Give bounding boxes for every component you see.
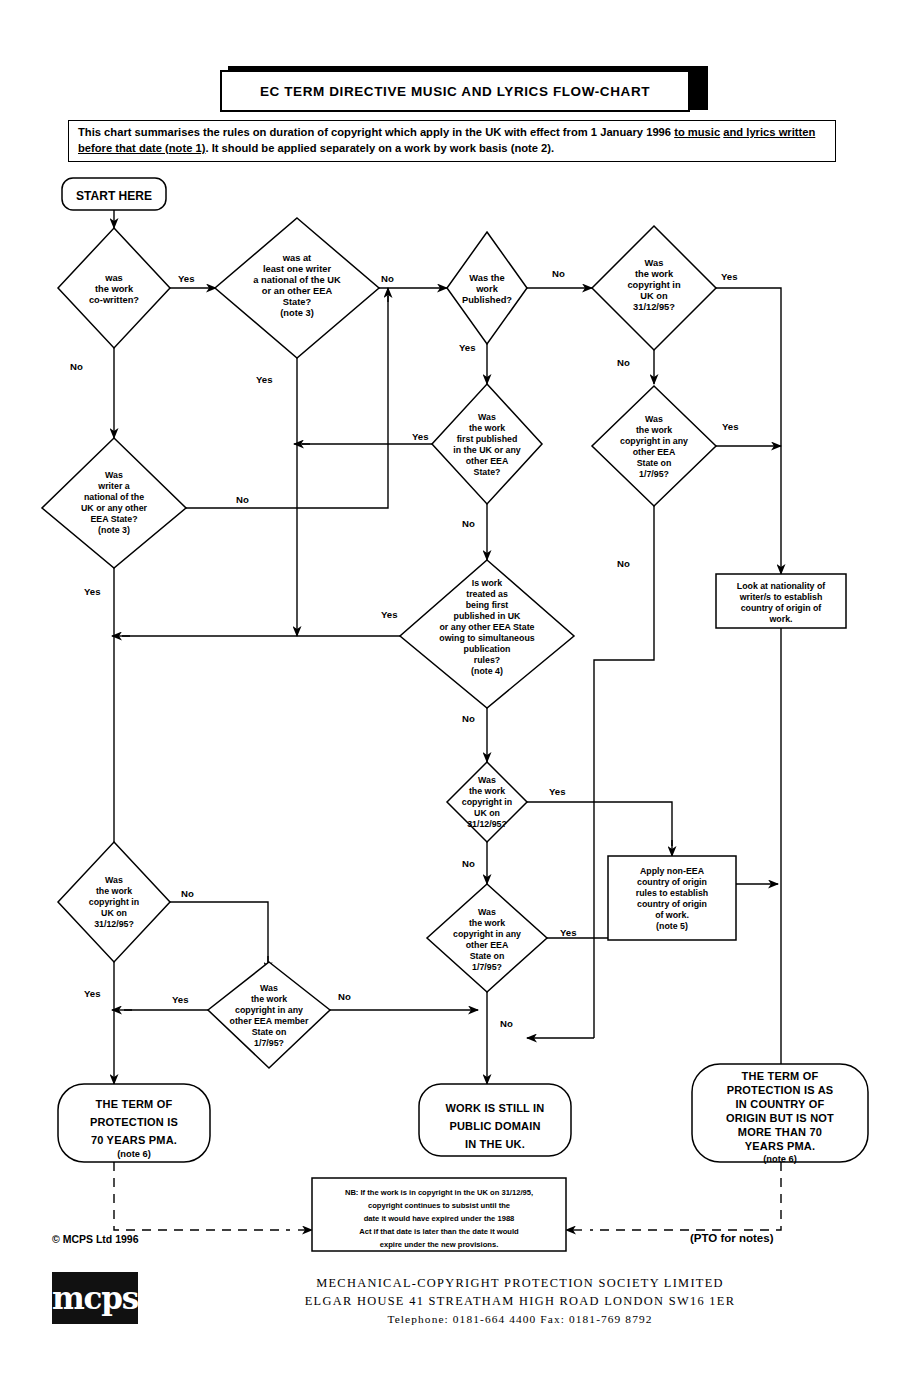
label-d6-yes: Yes [722,421,739,432]
label-d12-no: No [338,991,351,1002]
label-d11-no: No [181,888,194,899]
d11-line-3: copyright in [89,897,139,907]
d7-line-6: (note 3) [98,525,130,535]
p2-line-2: country of origin [637,877,707,887]
d4-line-1: Was [645,258,664,268]
p1-line-1: Look at nationality of [737,581,826,591]
d4-line-5: 31/12/95? [633,302,675,312]
t1-line-4: (note 6) [117,1149,151,1159]
d7-line-4: UK or any other [81,503,148,513]
label-d8-yes: Yes [381,609,398,620]
address-line-3: Telephone: 0181-664 4400 Fax: 0181-769 8… [190,1310,850,1328]
d2-line-3: a national of the UK [253,275,341,285]
nb-line-3: date it would have expired under the 198… [364,1214,515,1223]
label-d3-no: No [552,268,565,279]
d12-line-5: State on [252,1027,287,1037]
t3-line-4: ORIGIN BUT IS NOT [726,1112,834,1124]
edge-d6-no [594,506,654,1038]
label-d9-yes: Yes [549,786,566,797]
nb-line-1: NB: If the work is in copyright in the U… [345,1188,533,1197]
d6-line-5: State on [637,458,672,468]
label-d10-no: No [500,1018,513,1029]
d9-line-1: Was [478,775,496,785]
p1-line-4: work. [769,614,793,624]
pto-notice: (PTO for notes) [690,1232,773,1244]
d10-line-3: copyright in any [453,929,521,939]
d1-line-1: was [104,273,123,283]
p2-line-3: rules to establish [636,888,708,898]
t3-line-5: MORE THAN 70 [738,1126,822,1138]
d2-line-5: State? [283,297,312,307]
d6-line-6: 1/7/95? [639,469,669,479]
label-d11-yes: Yes [84,988,101,999]
d11-line-5: 31/12/95? [94,919,134,929]
t3-line-1: THE TERM OF [742,1070,819,1082]
d2-line-2: least one writer [263,264,332,274]
d8-line-2: treated as [466,589,508,599]
t3-line-2: PROTECTION IS AS [727,1084,834,1096]
d12-line-6: 1/7/95? [254,1038,284,1048]
label-d4-no: No [617,357,630,368]
d6-line-4: other EEA [633,447,676,457]
copyright-notice: © MCPS Ltd 1996 [52,1233,139,1245]
t3-line-3: IN COUNTRY OF [736,1098,825,1110]
d11-line-4: UK on [101,908,127,918]
d10-line-1: Was [478,907,496,917]
d2-line-4: or an other EEA [262,286,333,296]
d8-line-6: owing to simultaneous [439,633,534,643]
t2-line-2: PUBLIC DOMAIN [449,1120,540,1132]
label-d7-yes: Yes [84,586,101,597]
d8-line-7: publication [464,644,511,654]
d12-line-4: other EEA member [230,1016,309,1026]
t1-line-3: 70 YEARS PMA. [91,1134,177,1146]
d7-line-5: EEA State? [90,514,137,524]
p1-line-2: writer/s to establish [739,592,823,602]
nb-line-4: Act if that date is later than the date … [359,1227,519,1236]
d5-line-4: in the UK or any [453,445,521,455]
d12-line-3: copyright in any [235,1005,303,1015]
d11-line-2: the work [96,886,132,896]
edge-d9-yes [527,802,672,846]
d3-line-1: Was the [469,273,504,283]
label-d8-no: No [462,713,475,724]
mcps-logo: mcps [52,1272,138,1324]
d4-line-2: the work [635,269,674,279]
t2-line-3: IN THE UK. [465,1138,525,1150]
label-d7-no: No [236,494,249,505]
decision-eea-copyright-10795-top [592,386,716,506]
d7-line-1: Was [105,470,123,480]
mcps-logo-text: mcps [52,1283,138,1314]
address-line-2: ELGAR HOUSE 41 STREATHAM HIGH ROAD LONDO… [190,1292,850,1310]
t1-line-2: PROTECTION IS [90,1116,178,1128]
d5-line-5: other EEA [466,456,509,466]
d10-line-6: 1/7/95? [472,962,502,972]
d6-line-2: the work [636,425,672,435]
label-d3-yes: Yes [459,342,476,353]
t2-line-1: WORK IS STILL IN [446,1102,545,1114]
label-d10-yes: Yes [560,927,577,938]
label-d2-yes: Yes [256,374,273,385]
d9-line-4: UK on [474,808,500,818]
decision-first-published-uk-eea [432,384,542,504]
nb-line-2: copyright continues to subsist until the [368,1201,510,1210]
decision-eea-member-copyright-10795 [208,962,330,1068]
flowchart-page: EC TERM DIRECTIVE MUSIC AND LYRICS FLOW-… [0,0,902,1396]
t3-line-7: (note 6) [763,1154,797,1164]
d4-line-4: UK on [640,291,668,301]
d7-line-2: writer a [97,481,129,491]
label-d5-yes: Yes [412,431,429,442]
d1-line-2: the work [95,284,134,294]
label-d5-no: No [462,518,475,529]
nb-line-5: expire under the new provisions. [380,1240,499,1249]
d1-line-3: co-written? [89,295,139,305]
start-label: START HERE [76,189,152,203]
label-d1-no: No [70,361,83,372]
label-d4-yes: Yes [721,271,738,282]
d8-line-1: Is work [472,578,502,588]
d2-line-1: was at [282,253,311,263]
edge-d11-no [170,902,268,962]
label-d6-no: No [617,558,630,569]
d8-line-5: or any other EEA State [440,622,535,632]
d6-line-1: Was [645,414,663,424]
company-address: MECHANICAL-COPYRIGHT PROTECTION SOCIETY … [190,1274,850,1328]
